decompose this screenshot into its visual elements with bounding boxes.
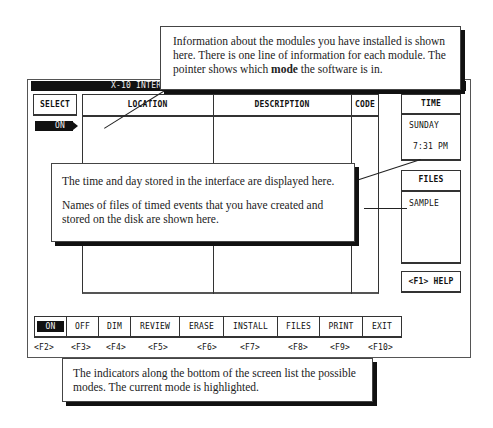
mode-review[interactable]: REVIEW [131,317,180,336]
mode-pointer: ON [35,121,73,131]
fkey-f3: <F3> [71,343,91,352]
fkey-f6: <F6> [197,343,217,352]
time-day: SUNDAY [409,121,439,130]
mode-files[interactable]: FILES [278,317,320,336]
column-location: LOCATION [82,94,213,115]
mode-exit[interactable]: EXIT [363,317,401,336]
fkey-f9: <F9> [330,343,350,352]
mode-on[interactable]: ON [35,317,67,336]
callout-time-text: The time and day stored in the interface… [62,174,344,188]
callout-modules: Information about the modules you have i… [160,26,461,90]
callout-modules-text: Information about the modules you have i… [173,34,448,76]
mode-erase[interactable]: ERASE [180,317,224,336]
mode-bar: ON OFF DIM REVIEW ERASE INSTALL FILES PR… [34,316,402,338]
mode-off[interactable]: OFF [67,317,99,336]
callout-modes: The indicators along the bottom of the s… [62,358,373,402]
callout-time-files: The time and day stored in the interface… [51,163,355,242]
fkey-f4: <F4> [106,343,126,352]
fkey-f7: <F7> [240,343,260,352]
select-header: SELECT [33,94,77,116]
mode-dim[interactable]: DIM [99,317,131,336]
time-clock: 7:31 PM [413,142,448,151]
mode-print[interactable]: PRINT [320,317,363,336]
time-header: TIME [401,94,461,115]
column-description: DESCRIPTION [213,94,351,115]
fkey-f2: <F2> [34,343,54,352]
callout-pointer-line [364,208,407,209]
files-header: FILES [401,170,461,192]
fkey-f10: <F10> [368,343,393,352]
callout-modes-text: The indicators along the bottom of the s… [73,366,362,394]
fkey-f8: <F8> [288,343,308,352]
column-code: CODE [351,94,379,115]
help-button[interactable]: <F1> HELP [401,271,461,293]
function-key-row: <F2> <F3> <F4> <F5> <F6> <F7> <F8> <F9> … [34,343,404,353]
file-item[interactable]: SAMPLE [409,199,439,208]
mode-install[interactable]: INSTALL [224,317,278,336]
callout-files-text: Names of files of timed events that you … [62,198,332,226]
fkey-f5: <F5> [148,343,168,352]
pointer-arrow-icon [73,122,78,130]
